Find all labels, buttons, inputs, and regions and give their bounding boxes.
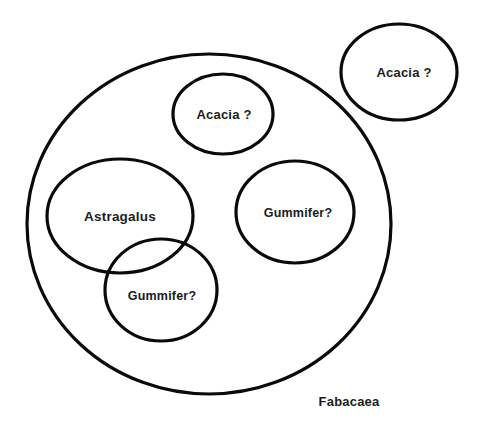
- gummifer-right-label: Gummifer?: [264, 206, 332, 220]
- acacia-outside-label: Acacia ?: [376, 65, 431, 80]
- fabacaea-circle: [27, 54, 391, 394]
- euler-diagram: Acacia ? Acacia ? Astragalus Gummifer? G…: [0, 0, 489, 425]
- fabacaea-label: Fabacaea: [319, 394, 380, 409]
- acacia-inside-label: Acacia ?: [196, 107, 251, 122]
- gummifer-overlap-label: Gummifer?: [128, 289, 196, 303]
- astragalus-label: Astragalus: [84, 209, 156, 224]
